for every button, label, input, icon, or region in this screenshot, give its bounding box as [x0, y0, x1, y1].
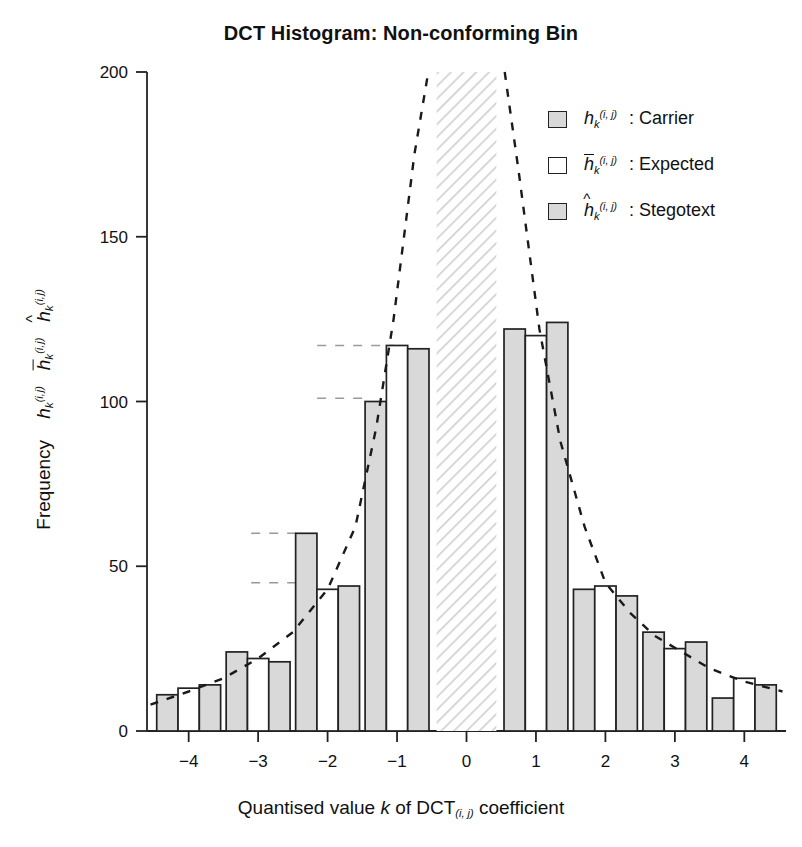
- legend-label: hk(i, j) : Expected: [584, 154, 714, 176]
- legend: hk(i, j) : Carrierhk(i, j) : Expected^hk…: [548, 96, 788, 234]
- legend-label: ^hk(i, j) : Stegotext: [584, 200, 715, 222]
- bar: [504, 329, 525, 731]
- x-tick-label: −4: [179, 752, 198, 771]
- x-tick-label: 2: [601, 752, 610, 771]
- legend-item-2[interactable]: hk(i, j) : Expected: [548, 142, 788, 188]
- legend-label: hk(i, j) : Carrier: [584, 108, 694, 130]
- x-axis-label: Quantised value k of DCT(i, j) coefficie…: [0, 797, 802, 819]
- x-axis-label-pre: Quantised value: [238, 797, 381, 818]
- x-axis-label-sub: (i, j): [455, 807, 473, 819]
- legend-swatch-grey: [548, 111, 567, 128]
- y-tick-label: 150: [100, 228, 128, 247]
- y-tick-label: 0: [119, 722, 128, 741]
- y-axis-label-wrap: Frequency hk(i, j) hk(i, j) ^hk(i, j): [14, 0, 58, 847]
- x-tick-label: 1: [531, 752, 540, 771]
- bar: [664, 649, 685, 731]
- non-conforming-bin-rect: [437, 72, 497, 731]
- legend-swatch-grey: [548, 203, 567, 220]
- x-axis-label-mid: of DCT: [390, 797, 455, 818]
- x-tick-label: 3: [670, 752, 679, 771]
- bar: [643, 632, 664, 731]
- legend-text: : Carrier: [624, 108, 694, 128]
- bar: [573, 589, 594, 731]
- legend-symbol: hk(i, j): [584, 108, 624, 130]
- bar: [595, 586, 616, 731]
- y-tick-label: 100: [100, 393, 128, 412]
- bar: [547, 322, 568, 731]
- legend-text: : Expected: [624, 154, 714, 174]
- x-axis-label-post: coefficient: [474, 797, 564, 818]
- bar: [734, 678, 755, 731]
- legend-item-3[interactable]: ^hk(i, j) : Stegotext: [548, 188, 788, 234]
- bar: [226, 652, 247, 731]
- bar: [296, 533, 317, 731]
- bar: [247, 659, 268, 731]
- x-tick-label: −3: [248, 752, 267, 771]
- bar: [408, 349, 429, 731]
- x-axis-label-k: k: [380, 797, 390, 818]
- x-tick-label: −2: [318, 752, 337, 771]
- dct-histogram-figure: DCT Histogram: Non-conforming Bin 050100…: [0, 0, 802, 847]
- bar: [755, 685, 776, 731]
- legend-symbol: hk(i, j): [584, 154, 624, 176]
- y-tick-group: 050100150200: [100, 63, 147, 741]
- x-tick-label: −1: [387, 752, 406, 771]
- bar: [712, 698, 733, 731]
- x-tick-label: 4: [740, 752, 749, 771]
- x-tick-label: 0: [462, 752, 471, 771]
- y-sym-stegotext: ^hk(i, j): [33, 289, 56, 322]
- bar: [365, 402, 386, 732]
- legend-swatch-white: [548, 157, 567, 174]
- y-tick-label: 50: [109, 557, 128, 576]
- y-axis-label-word: Frequency: [33, 440, 54, 530]
- legend-text: : Stegotext: [624, 200, 715, 220]
- y-tick-label: 200: [100, 63, 128, 82]
- legend-item-1[interactable]: hk(i, j) : Carrier: [548, 96, 788, 142]
- bar: [199, 685, 220, 731]
- bar: [157, 695, 178, 731]
- bar: [525, 336, 546, 731]
- y-axis-label: Frequency hk(i, j) hk(i, j) ^hk(i, j): [33, 229, 56, 589]
- legend-symbol: ^hk(i, j): [584, 200, 624, 222]
- x-tick-group: −4−3−2−101234: [179, 731, 749, 771]
- bar: [386, 345, 407, 731]
- bar: [269, 662, 290, 731]
- y-sym-expected: hk(i, j): [33, 338, 54, 371]
- y-sym-carrier: hk(i, j): [33, 386, 54, 419]
- bar: [317, 589, 338, 731]
- non-conforming-bin: [437, 72, 497, 731]
- bar: [178, 688, 199, 731]
- bar: [338, 586, 359, 731]
